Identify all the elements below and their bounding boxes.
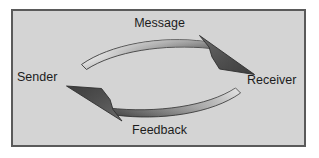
- label-feedback: Feedback: [0, 123, 319, 137]
- message-arrow: [82, 36, 255, 75]
- label-sender: Sender: [17, 70, 57, 84]
- feedback-arrow-body-shading: [109, 88, 241, 117]
- message-arrowhead: [200, 36, 255, 75]
- label-receiver: Receiver: [247, 73, 296, 87]
- feedback-arrowhead: [67, 86, 123, 121]
- label-message: Message: [0, 16, 319, 30]
- message-arrow-body-shading: [82, 40, 212, 70]
- communication-loop-diagram: Message Sender Receiver Feedback: [0, 0, 319, 158]
- feedback-arrow: [67, 86, 241, 121]
